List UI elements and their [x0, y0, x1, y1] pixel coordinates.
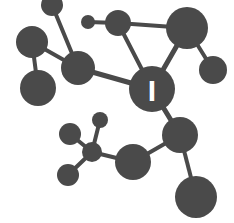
graph-node-n12: [162, 117, 198, 153]
network-graph-canvas: I: [0, 0, 234, 223]
graph-node-n14: [115, 144, 151, 180]
node-label-layer: I: [148, 74, 156, 107]
graph-node-n3: [105, 10, 131, 36]
graph-node-n2: [81, 15, 95, 29]
graph-node-n5: [16, 26, 48, 58]
graph-node-n11: [59, 123, 81, 145]
graph-node-n8: [20, 70, 56, 106]
graph-node-n6: [61, 51, 95, 85]
network-graph-figure: I: [0, 0, 234, 223]
graph-node-n7: [199, 56, 227, 84]
graph-node-n16: [175, 176, 217, 218]
graph-node-n15: [57, 164, 79, 186]
graph-node-n4: [166, 7, 208, 49]
graph-node-label-n9: I: [148, 74, 156, 107]
graph-node-n10: [92, 112, 108, 128]
graph-node-n13: [82, 142, 102, 162]
